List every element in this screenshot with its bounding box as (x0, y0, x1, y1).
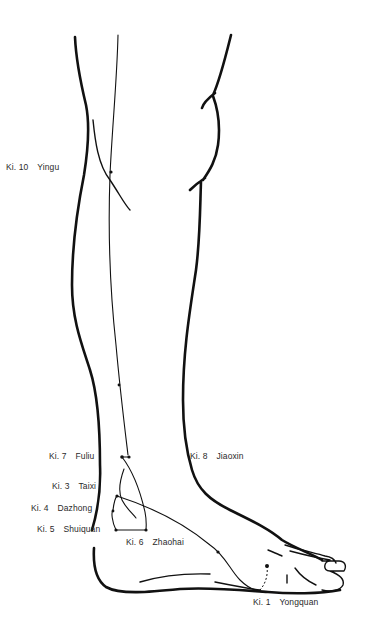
point-name: Shuiquan (64, 524, 101, 534)
point-name: Zhaohai (153, 537, 184, 547)
point-code: Ki. 4 (31, 503, 49, 513)
point-ki7 (120, 455, 124, 459)
label-ki7: Ki. 7Fuliu (49, 451, 94, 461)
point-ki5 (114, 528, 117, 531)
label-ki3: Ki. 3Taixi (52, 481, 96, 491)
leg-outline-front (183, 35, 322, 560)
point-name: Dazhong (58, 503, 93, 513)
point-code: Ki. 5 (37, 524, 55, 534)
point-ki3 (115, 494, 118, 497)
point-code: Ki. 8 (190, 451, 208, 461)
point-foot-mid (216, 550, 219, 553)
point-code: Ki. 1 (253, 597, 271, 607)
point-code: Ki. 7 (49, 451, 67, 461)
label-ki1: Ki. 1Yongquan (253, 597, 318, 607)
label-ki8: Ki. 8Jiaoxin (190, 451, 244, 461)
point-mid-shin (118, 384, 121, 387)
kidney-meridian-line (109, 35, 128, 455)
point-name: Yongquan (280, 597, 319, 607)
point-ki6 (144, 528, 147, 531)
point-name: Jiaoxin (217, 451, 244, 461)
knee-inner-contour (93, 120, 130, 210)
point-name: Fuliu (76, 451, 95, 461)
point-ki1 (265, 564, 269, 568)
point-name: Yingu (37, 162, 59, 172)
label-ki10: Ki. 10Yingu (6, 162, 59, 172)
point-ki4 (112, 510, 115, 513)
point-code: Ki. 6 (126, 537, 144, 547)
point-code: Ki. 10 (6, 162, 28, 172)
label-ki4: Ki. 4Dazhong (31, 503, 92, 513)
meridian-ki1-dashed (260, 566, 267, 590)
point-ki10 (109, 170, 112, 173)
point-name: Taixi (79, 481, 97, 491)
label-ki6: Ki. 6Zhaohai (126, 537, 184, 547)
meridian-ankle-loop (112, 457, 146, 530)
toes-contour (268, 545, 345, 591)
point-ki8 (127, 455, 130, 458)
label-ki5: Ki. 5Shuiquan (37, 524, 100, 534)
point-code: Ki. 3 (52, 481, 70, 491)
